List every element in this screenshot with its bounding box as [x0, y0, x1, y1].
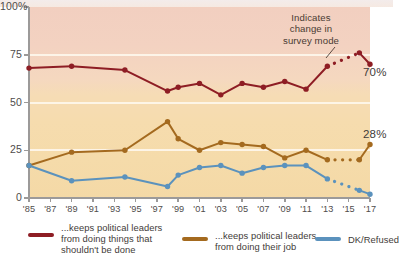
- annotation-leader-line: [326, 47, 335, 58]
- line-segment: [242, 167, 263, 173]
- data-point: [325, 157, 330, 162]
- line-segment: [200, 83, 221, 94]
- line-segment: [125, 122, 168, 151]
- line-segment: [221, 83, 242, 94]
- legend-label-red: ...keeps political leaders from doing th…: [61, 222, 162, 256]
- line-segment: [306, 150, 327, 160]
- series-0: [26, 50, 372, 97]
- legend-swatch-red: [28, 233, 54, 237]
- data-point: [357, 50, 362, 55]
- line-segment: [263, 81, 284, 87]
- data-point: [367, 142, 372, 147]
- line-segment: [263, 146, 284, 157]
- data-point: [122, 67, 127, 72]
- data-point: [197, 81, 202, 86]
- line-segment: [306, 66, 327, 89]
- data-point: [218, 92, 223, 97]
- legend-label-brown: ...keeps political leaders from doing th…: [215, 230, 316, 252]
- data-point: [69, 178, 74, 183]
- data-point: [239, 142, 244, 147]
- survey-mode-annotation: Indicates change in survey mode: [268, 12, 354, 46]
- legend-red-line-3: shouldn't be done: [61, 244, 162, 255]
- data-point: [69, 149, 74, 154]
- line-segment: [72, 150, 125, 152]
- data-point: [175, 85, 180, 90]
- data-point: [282, 155, 287, 160]
- line-segment: [221, 143, 242, 145]
- legend-swatch-blue: [315, 237, 341, 241]
- data-point: [325, 64, 330, 69]
- dashed-survey-mode-segment: [327, 179, 359, 190]
- data-point: [122, 148, 127, 153]
- annotation-line-3: survey mode: [268, 35, 354, 46]
- legend-blue-line-1: DK/Refused: [348, 234, 399, 245]
- legend-red-line-1: ...keeps political leaders: [61, 222, 162, 233]
- end-label-red: 70%: [363, 66, 387, 78]
- data-point: [175, 172, 180, 177]
- data-point: [239, 81, 244, 86]
- line-segment: [285, 81, 306, 89]
- line-segment: [242, 145, 263, 147]
- line-segment: [29, 66, 72, 68]
- series-2: [26, 163, 372, 197]
- data-point: [26, 163, 31, 168]
- line-segment: [359, 145, 370, 160]
- annotation-line-2: change in: [268, 23, 354, 34]
- line-segment: [221, 166, 242, 174]
- line-segment: [200, 166, 221, 168]
- data-point: [282, 79, 287, 84]
- chart-legend: ...keeps political leaders from doing th…: [0, 222, 393, 268]
- dashed-survey-mode-segment: [327, 53, 359, 66]
- line-segment: [29, 152, 72, 165]
- data-point: [357, 188, 362, 193]
- annotation-line-1: Indicates: [268, 12, 354, 23]
- series-1: [26, 119, 372, 168]
- end-label-brown: 28%: [363, 128, 387, 140]
- legend-swatch-brown: [182, 237, 208, 241]
- data-point: [69, 64, 74, 69]
- line-segment: [263, 166, 284, 168]
- data-point: [261, 144, 266, 149]
- legend-item-keeps-from-wrongdoing: ...keeps political leaders from doing th…: [28, 222, 178, 256]
- data-point: [165, 184, 170, 189]
- data-point: [239, 170, 244, 175]
- data-point: [303, 86, 308, 91]
- line-segment: [125, 70, 168, 91]
- data-point: [165, 119, 170, 124]
- legend-brown-line-2: from doing their job: [215, 241, 316, 252]
- line-segment: [285, 150, 306, 158]
- line-segment: [242, 83, 263, 87]
- data-point: [26, 65, 31, 70]
- line-segment: [72, 66, 125, 70]
- line-segment: [178, 167, 199, 175]
- line-segment: [178, 139, 199, 150]
- data-point: [325, 176, 330, 181]
- data-point: [175, 136, 180, 141]
- legend-item-dk-refused: DK/Refused: [315, 234, 395, 245]
- line-segment: [200, 143, 221, 151]
- data-point: [282, 163, 287, 168]
- line-segment: [72, 177, 125, 181]
- data-point: [122, 174, 127, 179]
- data-point: [367, 191, 372, 196]
- data-point: [357, 157, 362, 162]
- data-point: [303, 148, 308, 153]
- data-point: [261, 165, 266, 170]
- data-point: [197, 165, 202, 170]
- data-point: [218, 163, 223, 168]
- legend-item-keeps-from-job: ...keeps political leaders from doing th…: [182, 230, 322, 252]
- line-segment: [168, 122, 179, 139]
- line-segment: [29, 166, 72, 181]
- legend-brown-line-1: ...keeps political leaders: [215, 230, 316, 241]
- legend-red-line-2: from doing things that: [61, 233, 162, 244]
- data-point: [303, 163, 308, 168]
- legend-label-blue: DK/Refused: [348, 234, 399, 245]
- line-segment: [125, 177, 168, 187]
- data-point: [197, 148, 202, 153]
- data-point: [261, 85, 266, 90]
- line-segment: [306, 166, 327, 179]
- data-point: [218, 140, 223, 145]
- line-segment: [178, 83, 199, 87]
- data-point: [165, 88, 170, 93]
